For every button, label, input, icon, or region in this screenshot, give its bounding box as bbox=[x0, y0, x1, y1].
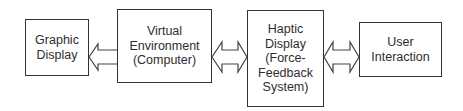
user-interaction-label: User Interaction bbox=[371, 35, 429, 64]
arrow-haptic-user bbox=[324, 42, 359, 72]
virtual-environment-label: Virtual Environment (Computer) bbox=[129, 24, 199, 68]
haptic-display-box: Haptic Display (Force- Feedback System) bbox=[247, 10, 324, 107]
graphic-display-label: Graphic Display bbox=[35, 33, 79, 62]
haptic-display-label: Haptic Display (Force- Feedback System) bbox=[258, 22, 313, 95]
arrow-ve-haptic bbox=[212, 42, 247, 72]
graphic-display-box: Graphic Display bbox=[25, 19, 89, 76]
user-interaction-box: User Interaction bbox=[359, 22, 442, 77]
virtual-environment-box: Virtual Environment (Computer) bbox=[117, 9, 212, 83]
arrow-ve-to-graphic bbox=[89, 44, 118, 70]
